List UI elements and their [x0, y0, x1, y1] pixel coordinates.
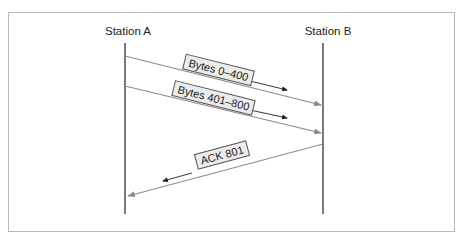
station-b-label: Station B	[305, 25, 352, 37]
sequence-diagram	[0, 0, 475, 247]
station-a-label: Station A	[105, 25, 151, 37]
